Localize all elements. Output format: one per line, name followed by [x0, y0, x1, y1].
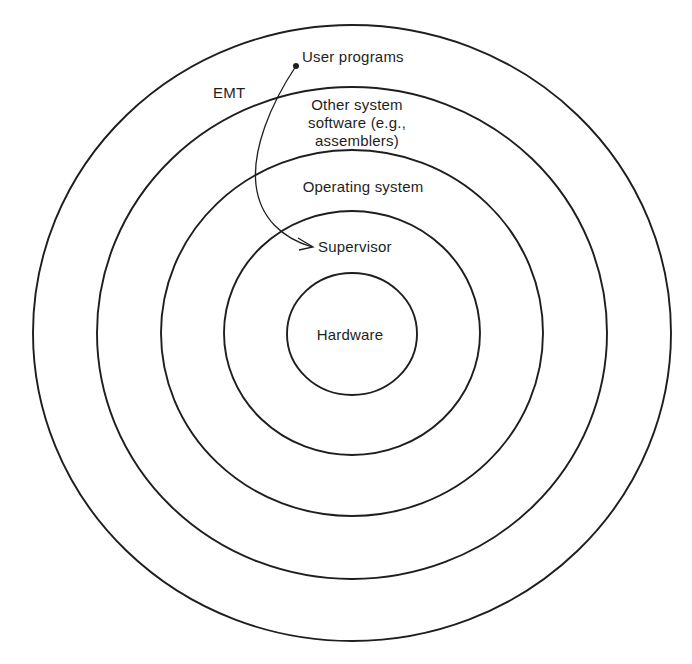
label-user-programs: User programs: [302, 48, 404, 65]
label-other-system-software-line3: assemblers): [315, 132, 399, 149]
layered-system-diagram: User programs EMT Other system software …: [0, 0, 692, 664]
label-operating-system: Operating system: [303, 178, 424, 195]
label-other-system-software-line2: software (e.g.,: [308, 114, 406, 131]
label-other-system-software-line1: Other system: [311, 96, 403, 113]
label-supervisor: Supervisor: [318, 238, 392, 255]
label-emt: EMT: [213, 84, 245, 101]
arrow-head-icon: [298, 238, 313, 250]
label-hardware: Hardware: [317, 326, 384, 343]
